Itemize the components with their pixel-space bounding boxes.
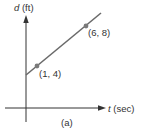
y-axis-unit: (ft) — [19, 2, 33, 13]
x-axis-unit: (sec) — [111, 103, 135, 114]
point-label-1-4: (1, 4) — [39, 69, 61, 79]
y-axis-label: d (ft) — [14, 3, 34, 13]
y-axis-arrow-icon — [23, 15, 28, 23]
chart-figure: d (ft) (6, 8) (1, 4) t (sec) (a) — [0, 0, 142, 139]
point-label-6-8: (6, 8) — [88, 28, 110, 38]
x-axis — [5, 105, 106, 110]
y-axis — [23, 15, 28, 122]
x-axis-label: t (sec) — [108, 104, 134, 114]
figure-caption: (a) — [61, 118, 73, 128]
x-axis-arrow-icon — [98, 105, 106, 110]
